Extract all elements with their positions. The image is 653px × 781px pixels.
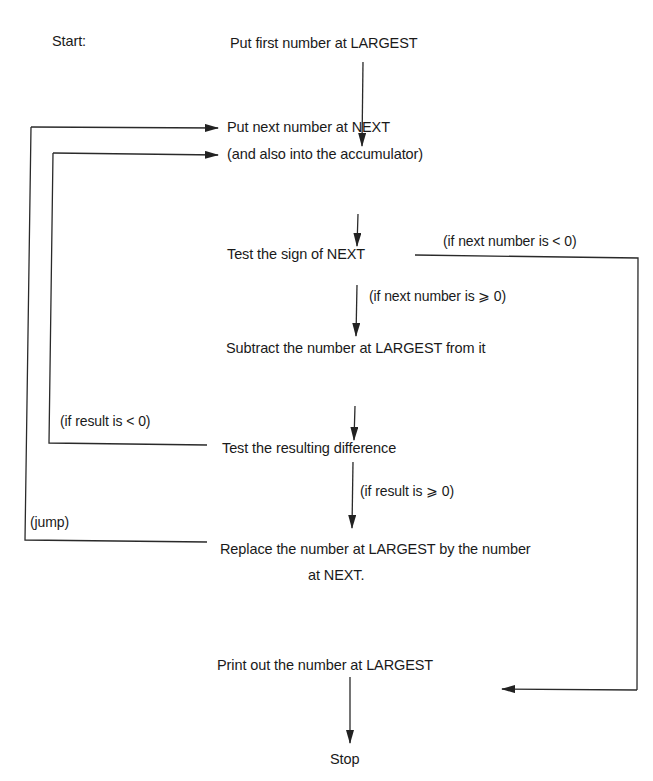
label-result-negative: (if result is < 0) — [60, 413, 150, 429]
label-next-nonnegative: (if next number is ⩾ 0) — [369, 288, 506, 304]
node-print-out: Print out the number at LARGEST — [217, 657, 433, 673]
node-put-first-number: Put first number at LARGEST — [230, 35, 417, 51]
node-replace-line1: Replace the number at LARGEST by the num… — [220, 541, 531, 557]
arrow-n3-n4 — [356, 285, 357, 336]
node-replace-line2: at NEXT. — [308, 567, 364, 583]
arrow-outer-into-n2 — [31, 127, 218, 128]
node-put-next-number-line2: (and also into the accumulator) — [227, 146, 423, 162]
node-subtract: Subtract the number at LARGEST from it — [226, 340, 485, 356]
label-jump: (jump) — [30, 514, 69, 530]
node-put-next-number-line1: Put next number at NEXT — [227, 119, 390, 135]
arrow-n4-n5 — [354, 406, 355, 440]
node-stop: Stop — [330, 751, 359, 767]
label-next-negative: (if next number is < 0) — [443, 233, 576, 249]
start-label: Start: — [52, 33, 86, 49]
arrow-n5-n6 — [352, 462, 353, 528]
arrow-n2-n3 — [357, 214, 358, 246]
label-result-nonnegative: (if result is ⩾ 0) — [360, 483, 454, 499]
node-test-sign: Test the sign of NEXT — [227, 246, 365, 262]
node-test-difference: Test the resulting difference — [222, 440, 396, 456]
loop-result-negative — [49, 153, 207, 445]
arrow-inner-into-n2 — [53, 153, 218, 155]
arrow-into-n7 — [502, 689, 637, 690]
branch-next-negative — [415, 255, 638, 690]
